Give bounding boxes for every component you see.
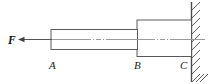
fixed-support-wall	[192, 2, 209, 82]
bar-segment-bc	[137, 20, 192, 57]
wall-hatching-icon	[192, 2, 208, 82]
point-label-b: B	[134, 59, 141, 71]
force-label: F	[7, 34, 16, 46]
point-label-a: A	[48, 59, 56, 71]
arrow-left-icon	[18, 37, 25, 42]
mechanics-diagram: F A B C	[0, 0, 214, 84]
diagram-canvas: F A B C	[0, 0, 214, 84]
force-arrow	[18, 37, 52, 42]
point-label-c: C	[180, 59, 188, 71]
